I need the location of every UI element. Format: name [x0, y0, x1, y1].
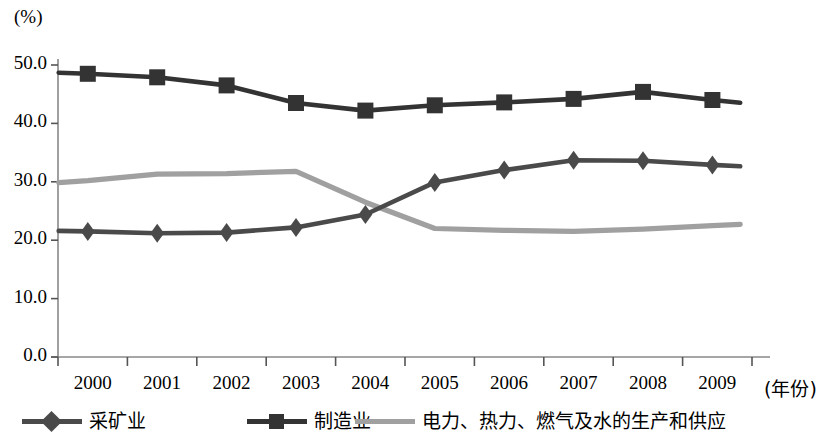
data-point-marker	[635, 84, 651, 100]
data-point-marker	[496, 94, 512, 110]
data-point-marker	[359, 205, 373, 224]
chart-container: (%) 0.010.020.030.040.050.0 200020012002…	[0, 0, 827, 441]
x-axis-tick-label: 2009	[683, 372, 752, 394]
data-point-marker	[357, 103, 373, 119]
x-axis-title: (年份)	[764, 374, 817, 401]
y-axis-tick-label: 40.0	[14, 110, 47, 132]
y-axis-tick-label: 0.0	[23, 344, 47, 366]
data-point-marker	[219, 77, 235, 93]
series-line-1	[59, 160, 741, 233]
square-marker	[269, 414, 284, 429]
data-point-marker	[289, 218, 303, 237]
x-axis-tick-label: 2001	[127, 372, 196, 394]
data-point-marker	[80, 66, 96, 82]
data-point-marker	[149, 69, 165, 85]
series-line-3	[59, 171, 741, 231]
data-point-marker	[288, 95, 304, 111]
legend-line	[355, 419, 415, 424]
x-axis-tick-label: 2006	[474, 372, 543, 394]
data-point-marker	[567, 151, 581, 170]
data-point-marker	[636, 151, 650, 170]
line-only-icon	[355, 412, 415, 430]
legend-label: 采矿业	[89, 412, 146, 431]
data-point-marker	[428, 173, 442, 192]
data-point-marker	[150, 224, 164, 243]
diamond-marker-icon	[22, 412, 82, 430]
data-point-marker	[427, 97, 443, 113]
data-point-marker	[220, 223, 234, 242]
x-axis-tick-label: 2008	[613, 372, 682, 394]
data-point-marker	[566, 91, 582, 107]
series-group	[59, 66, 741, 243]
y-axis-tick-label: 10.0	[14, 286, 47, 308]
data-point-marker	[497, 161, 511, 180]
data-point-marker	[704, 92, 720, 108]
x-axis-tick-label: 2007	[544, 372, 613, 394]
data-point-marker	[81, 222, 95, 241]
diamond-marker	[41, 411, 62, 432]
y-axis-tick-label: 20.0	[14, 227, 47, 249]
square-marker-icon	[247, 412, 307, 430]
x-axis-tick-label: 2004	[336, 372, 405, 394]
legend-item-3[interactable]: 电力、热力、燃气及水的生产和供应	[355, 406, 726, 436]
y-axis-tick-label: 30.0	[14, 169, 47, 191]
x-axis-tick-label: 2002	[197, 372, 266, 394]
x-axis-tick-label: 2003	[266, 372, 335, 394]
x-axis-tick-label: 2000	[58, 372, 127, 394]
chart-legend: 采矿业制造业电力、热力、燃气及水的生产和供应	[0, 406, 827, 441]
x-axis-tick-label: 2005	[405, 372, 474, 394]
legend-item-2[interactable]: 制造业	[247, 406, 371, 436]
y-axis-tick-label: 50.0	[14, 52, 47, 74]
data-point-marker	[706, 155, 720, 174]
legend-item-1[interactable]: 采矿业	[22, 406, 146, 436]
legend-label: 电力、热力、燃气及水的生产和供应	[422, 412, 726, 431]
